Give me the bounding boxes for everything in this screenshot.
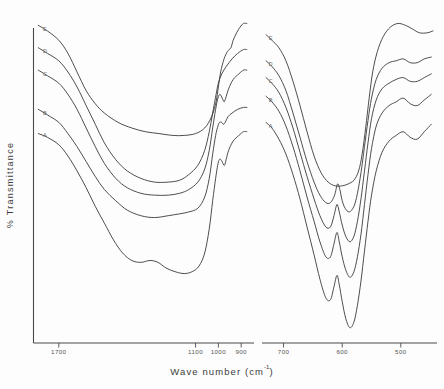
spectrum-curve-a — [38, 131, 247, 273]
axis-tick-label-1000: 1000 — [211, 348, 227, 355]
spectra-plot-canvas: 170011001000900700600500 EDCBAEDCBA Wave… — [0, 0, 444, 389]
y-axis-title: % Transmittance — [5, 142, 15, 229]
x-axis-title: Wave number (cm-1) — [170, 364, 273, 378]
axis-tick-label-500: 500 — [395, 348, 407, 355]
curve-label-c: C — [269, 78, 273, 84]
axis-tick-label-700: 700 — [278, 348, 290, 355]
curve-label-a: A — [269, 123, 273, 129]
axis-tick-label-900: 900 — [235, 348, 247, 355]
spectra-curves — [38, 23, 433, 328]
curve-label-c: C — [43, 71, 47, 77]
curve-label-e: E — [43, 26, 47, 32]
axis-tick-label-600: 600 — [336, 348, 348, 355]
curve-labels: EDCBAEDCBA — [43, 26, 273, 138]
spectrum-curve-c — [266, 74, 431, 242]
curve-label-d: D — [269, 61, 273, 67]
ir-spectra-figure: 170011001000900700600500 EDCBAEDCBA Wave… — [0, 0, 444, 389]
curve-label-b: B — [43, 110, 47, 116]
curve-label-a: A — [43, 132, 47, 138]
spectrum-curve-a — [266, 122, 431, 327]
axis-tick-label-1700: 1700 — [51, 348, 67, 355]
axis-ticks: 170011001000900700600500 — [51, 343, 407, 355]
spectrum-curve-e — [266, 23, 433, 186]
curve-label-e: E — [269, 35, 273, 41]
curve-label-d: D — [43, 48, 47, 54]
spectrum-curve-d — [38, 48, 247, 183]
axis-tick-label-1100: 1100 — [188, 348, 203, 355]
spectrum-curve-b — [38, 107, 247, 217]
spectrum-curve-e — [38, 23, 247, 135]
curve-label-b: B — [269, 97, 273, 103]
